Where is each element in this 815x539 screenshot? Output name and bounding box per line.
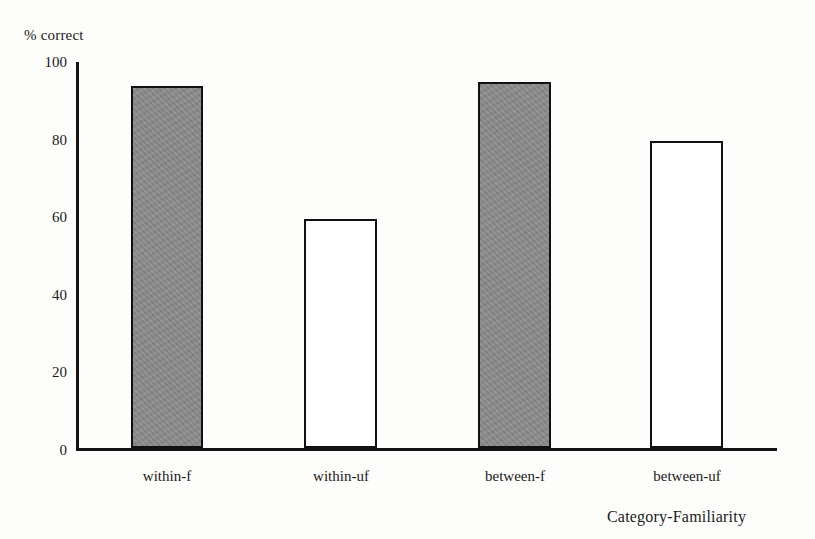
y-tick-100: 100 [9,54,67,71]
y-tick-60: 60 [9,209,67,226]
x-category-label-within-f: within-f [143,468,191,485]
y-tick-0: 0 [9,442,67,459]
bar-within-f [131,86,203,448]
bar-chart-figure: % correct 100 80 60 40 20 0 within-f wit… [0,0,815,539]
y-tick-20: 20 [9,364,67,381]
y-tick-80: 80 [9,131,67,148]
y-axis-line [76,62,79,451]
x-category-label-within-uf: within-uf [313,468,369,485]
x-category-label-between-uf: between-uf [653,468,720,485]
y-tick-40: 40 [9,286,67,303]
bar-between-uf [650,141,723,448]
x-category-label-between-f: between-f [485,468,545,485]
bar-within-uf [304,219,377,449]
bar-between-f [478,82,551,448]
y-axis-title: % correct [24,27,84,44]
x-axis-line [76,448,777,451]
x-axis-title: Category-Familiarity [607,508,746,526]
plot-area [76,62,777,451]
